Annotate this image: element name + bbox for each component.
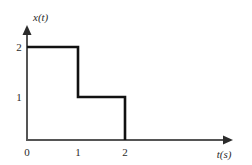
x-tick-label-2: 2	[122, 146, 128, 158]
y-axis-arrow-icon	[23, 25, 32, 35]
x-axis-arrow-icon	[223, 136, 233, 145]
plot-canvas: 2 1 0 1 2 x(t) t(s)	[0, 0, 252, 165]
signal-plot-figure: 2 1 0 1 2 x(t) t(s)	[0, 0, 252, 165]
y-tick-label-1: 1	[16, 91, 22, 103]
y-tick-label-2: 2	[16, 41, 22, 53]
signal-waveform	[27, 47, 125, 140]
x-tick-label-1: 1	[75, 146, 81, 158]
y-axis-label: x(t)	[32, 11, 49, 24]
x-tick-label-0: 0	[24, 146, 30, 158]
x-axis-label: t(s)	[217, 148, 232, 161]
